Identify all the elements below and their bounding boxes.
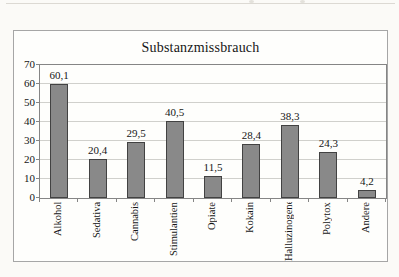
x-axis-cell: Opiate — [193, 202, 231, 262]
bar-value-label: 38,3 — [280, 111, 299, 122]
y-axis-tick — [36, 140, 40, 141]
gridline — [40, 121, 386, 122]
x-axis-label: Kokain — [244, 202, 256, 261]
x-axis-cell: Sedativa — [77, 202, 115, 262]
x-axis-cell: Halluzinogene — [270, 202, 308, 262]
cropped-text-artifact — [6, 3, 395, 4]
gridline — [40, 102, 386, 103]
y-axis-tick — [36, 64, 40, 65]
chart-title: Substanzmissbrauch — [14, 40, 387, 56]
x-axis-cell: Cannabis — [116, 202, 154, 262]
bar-opiate — [204, 176, 222, 198]
bar-value-label: 24,3 — [319, 138, 338, 149]
y-axis-label: 60 — [14, 77, 35, 89]
bar-value-label: 4,2 — [360, 176, 374, 187]
y-axis-tick — [36, 102, 40, 103]
x-axis-cell: Kokain — [231, 202, 269, 262]
x-axis-cell: Stimulantien — [154, 202, 192, 262]
bar-cannabis — [127, 142, 145, 198]
bar-value-label: 28,4 — [242, 130, 261, 141]
y-axis-label: 70 — [14, 58, 35, 70]
gridline — [40, 83, 386, 84]
bar-kokain — [242, 144, 260, 198]
x-axis-cell: Polytox — [308, 202, 346, 262]
bar-andere — [358, 190, 376, 198]
bar-stimulantien — [166, 121, 184, 198]
plot-area: 60,120,429,540,511,528,438,324,34,2 — [39, 64, 387, 199]
bar-value-label: 11,5 — [204, 162, 223, 173]
bar-value-label: 40,5 — [165, 107, 184, 118]
y-axis-label: 10 — [14, 172, 35, 184]
bar-halluzinogene — [281, 125, 299, 198]
chart: Substanzmissbrauch 60,120,429,540,511,52… — [13, 30, 388, 262]
x-axis-label: Opiate — [206, 202, 218, 261]
y-axis-tick — [36, 178, 40, 179]
x-axis-label: Halluzinogene — [283, 202, 295, 261]
y-axis-tick — [36, 121, 40, 122]
bar-value-label: 60,1 — [50, 70, 69, 81]
y-axis-label: 50 — [14, 96, 35, 108]
x-axis-label: Sedativa — [91, 202, 103, 261]
x-axis-label: Polytox — [321, 202, 333, 261]
cropped-text-speck — [249, 0, 254, 3]
bar-sedativa — [89, 159, 107, 198]
bar-alkohol — [50, 84, 68, 198]
x-axis-cell: Andere — [347, 202, 385, 262]
x-axis-labels: AlkoholSedativaCannabisStimulantienOpiat… — [39, 202, 385, 262]
x-axis-label: Cannabis — [129, 202, 141, 261]
x-axis-label: Andere — [360, 202, 372, 261]
x-axis-tick — [385, 198, 386, 202]
x-axis-label: Stimulantien — [168, 202, 180, 261]
y-axis-label: 30 — [14, 134, 35, 146]
y-axis-label: 40 — [14, 115, 35, 127]
y-axis-label: 0 — [14, 191, 35, 203]
y-axis-label: 20 — [14, 153, 35, 165]
bar-polytox — [319, 152, 337, 198]
bar-value-label: 20,4 — [88, 145, 107, 156]
cropped-text-speck — [300, 0, 305, 3]
y-axis-tick — [36, 159, 40, 160]
y-axis-tick — [36, 83, 40, 84]
x-axis-cell: Alkohol — [39, 202, 77, 262]
page: { "chart_data": { "type": "bar", "title"… — [0, 0, 399, 277]
bar-value-label: 29,5 — [126, 128, 145, 139]
x-axis-label: Alkohol — [52, 202, 64, 261]
